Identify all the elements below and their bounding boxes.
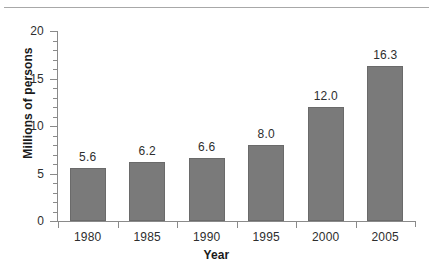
y-tick-minor [53,212,58,213]
x-tick-label: 2005 [355,231,415,243]
y-tick-minor [53,88,58,89]
y-tick-minor [53,117,58,118]
x-tick-label: 1995 [236,231,296,243]
y-tick-major [50,126,58,127]
x-tick [58,222,59,228]
bar [248,145,284,221]
x-tick [296,222,297,228]
x-axis-title: Year [0,248,433,262]
x-tick [237,222,238,228]
x-tick-label: 1990 [177,231,237,243]
x-tick [356,222,357,228]
y-tick-major [50,174,58,175]
bar [308,107,344,221]
bar-value-label: 5.6 [58,151,118,163]
bar [189,158,225,221]
y-tick-minor [53,193,58,194]
y-tick-major [50,79,58,80]
chart-figure: 05101520 198019851990199520002005 5.66.2… [0,0,433,270]
y-tick-minor [53,98,58,99]
x-tick-label: 2000 [296,231,356,243]
y-tick-minor [53,41,58,42]
y-tick-label: 5 [37,168,44,180]
bar [70,168,106,221]
y-tick-minor [53,145,58,146]
page-top-rule [4,7,429,8]
y-tick-minor [53,107,58,108]
bar [129,162,165,221]
x-tick-label: 1985 [117,231,177,243]
y-tick-minor [53,164,58,165]
x-tick [118,222,119,228]
x-tick-label: 1980 [58,231,118,243]
y-tick-major [50,31,58,32]
y-tick-minor [53,183,58,184]
y-tick-minor [53,202,58,203]
bar-value-label: 6.6 [177,141,237,153]
bar-value-label: 12.0 [296,90,356,102]
y-tick-label: 0 [37,215,44,227]
y-tick-minor [53,136,58,137]
y-axis-title: Millions of persons [21,23,35,183]
y-tick-minor [53,60,58,61]
bar-value-label: 8.0 [236,128,296,140]
y-tick-major [50,221,58,222]
x-tick [177,222,178,228]
x-axis-end-cap [415,221,416,227]
y-tick-minor [53,69,58,70]
bar [367,66,403,221]
y-tick-minor [53,50,58,51]
bar-value-label: 6.2 [117,145,177,157]
bar-value-label: 16.3 [355,49,415,61]
